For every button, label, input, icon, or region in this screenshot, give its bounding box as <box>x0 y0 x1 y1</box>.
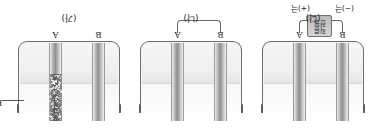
deposit-particle <box>56 96 58 98</box>
deposit-particle <box>57 89 58 90</box>
electrode-b-label: B <box>92 30 106 40</box>
electrode-b <box>92 43 105 121</box>
deposit-particle <box>49 100 51 102</box>
deposit-particle <box>55 81 57 83</box>
deposit-particle <box>57 75 59 77</box>
solution-callout-leader-line <box>2 100 24 101</box>
deposit-particle <box>59 113 60 114</box>
electrode-a-label: A <box>49 30 63 40</box>
beaker-rim-left <box>241 105 243 114</box>
electrode-a <box>171 43 184 121</box>
panel-caption-na: (나) <box>132 12 250 25</box>
deposit-particle <box>52 94 53 95</box>
electrode-b <box>336 43 349 121</box>
deposit-particle <box>58 116 60 118</box>
deposit-particle <box>54 75 56 77</box>
electrode-a <box>293 43 306 121</box>
deposit-particle <box>60 91 62 93</box>
beaker-rim-right <box>261 105 263 114</box>
panel-na: B A (나) <box>132 0 250 133</box>
solution-formula-main: FeSO <box>0 98 2 108</box>
deposit-particle <box>51 118 53 120</box>
beaker-rim-right <box>17 105 19 114</box>
deposit-particle <box>53 82 55 84</box>
deposit-particle <box>51 77 53 79</box>
electrode-b <box>214 43 227 121</box>
deposit-particle <box>59 81 60 82</box>
panel-caption-ga: (가) <box>10 12 128 25</box>
panel-caption-da: (다) <box>254 12 372 25</box>
panel-da: B A 직류 전원 (−)극 (+)극 (다) <box>254 0 372 133</box>
beaker-rim-left <box>119 105 121 114</box>
deposit-particle <box>58 105 59 106</box>
panel-ga: B A FeSO4(aq) (가) <box>10 0 128 133</box>
deposit-on-electrode-a <box>49 74 62 121</box>
beaker-rim-left <box>363 105 365 114</box>
beaker-rim-right <box>139 105 141 114</box>
deposit-particle <box>53 113 54 114</box>
deposit-particle <box>55 86 57 88</box>
solution-callout-label: FeSO4(aq) <box>0 96 2 108</box>
deposit-particle <box>58 84 60 86</box>
electrochemistry-figure: B A 직류 전원 (−)극 (+)극 (다) B A (나) <box>0 0 378 133</box>
